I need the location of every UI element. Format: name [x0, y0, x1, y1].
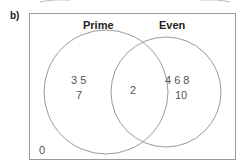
- prime-only-row-2: 7: [76, 89, 82, 101]
- even-only-row-1: 4 6 8: [165, 74, 189, 86]
- partial-arc-left: [40, 0, 70, 2]
- intersection-value: 2: [130, 84, 136, 96]
- partial-arc-right: [200, 0, 230, 2]
- prime-only-row-1: 3 5: [71, 74, 86, 86]
- even-only-row-2: 10: [175, 89, 187, 101]
- prime-set-title: Prime: [83, 19, 114, 31]
- even-circle: [111, 37, 221, 147]
- outside-value: 0: [39, 144, 45, 156]
- prime-circle: [44, 30, 168, 154]
- even-set-title: Even: [159, 19, 185, 31]
- venn-diagram: [0, 0, 241, 161]
